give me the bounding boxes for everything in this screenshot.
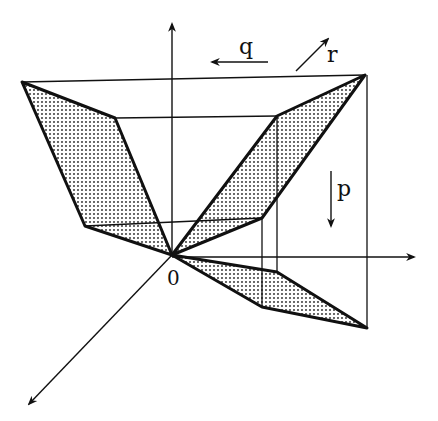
- p-label: p: [337, 176, 351, 201]
- projection-diagram: q r p 0: [0, 0, 438, 421]
- origin-label: 0: [167, 266, 180, 290]
- diagram-canvas: q r p 0: [0, 0, 438, 421]
- top-edge-line: [22, 75, 365, 82]
- r-label: r: [327, 42, 338, 67]
- middle-edge-line: [115, 116, 277, 118]
- lower-shaded-face: [172, 255, 367, 328]
- r-arrow-icon: [296, 39, 328, 71]
- upper-right-shaded-face: [172, 75, 365, 255]
- q-label: q: [239, 34, 253, 59]
- diagonal-axis: [29, 255, 172, 404]
- left-shaded-face: [22, 82, 172, 255]
